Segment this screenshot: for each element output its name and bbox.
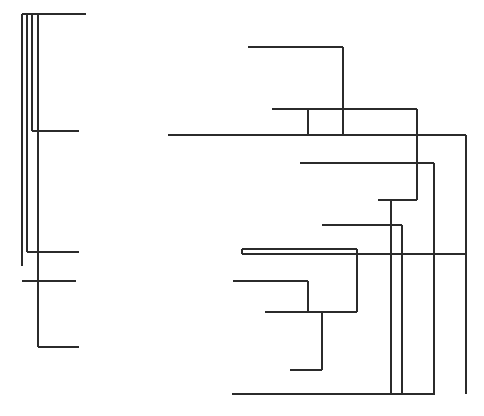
dendrogram-figure: [0, 0, 484, 416]
figure-background: [0, 0, 484, 416]
figure-canvas: [0, 0, 484, 416]
